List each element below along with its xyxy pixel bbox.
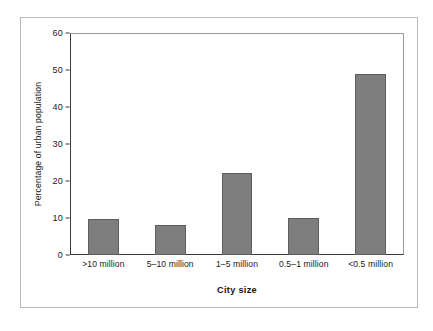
x-axis-tick-label: <0.5 million [337, 258, 404, 270]
x-axis-tick-label: 1–5 million [204, 258, 271, 270]
y-axis-tick-label: 40 [53, 103, 66, 112]
y-axis-tick: 40 [53, 103, 70, 112]
y-axis-tick: 60 [53, 29, 70, 38]
y-axis-tick-mark [66, 254, 70, 255]
y-axis-tick-label: 10 [53, 214, 66, 223]
y-axis-tick-label: 60 [53, 29, 66, 38]
x-axis-title: City size [70, 285, 404, 295]
y-axis-tick: 10 [53, 214, 70, 223]
y-axis-tick: 50 [53, 66, 70, 75]
x-axis-tick-label: 0.5–1 million [270, 258, 337, 270]
x-axis-tick-labels: >10 million5–10 million1–5 million0.5–1 … [70, 258, 404, 274]
y-axis-tick-mark [66, 106, 70, 107]
y-axis-tick: 0 [58, 251, 70, 260]
y-axis-tick-label: 20 [53, 177, 66, 186]
y-axis-tick-mark [66, 180, 70, 181]
y-axis-tick-mark [66, 69, 70, 70]
y-axis-tick-mark [66, 217, 70, 218]
x-axis-tick-label: 5–10 million [137, 258, 204, 270]
bar-chart-figure: 0102030405060 Percentage of urban popula… [0, 0, 433, 331]
x-axis-tick-label: >10 million [70, 258, 137, 270]
y-axis-tick-mark [66, 143, 70, 144]
y-axis-tick-label: 30 [53, 140, 66, 149]
y-axis-title: Percentage of urban population [31, 33, 45, 255]
y-axis-tick: 30 [53, 140, 70, 149]
y-axis-tick-label: 0 [58, 251, 66, 260]
plot-area [70, 33, 404, 255]
y-axis-tick-label: 50 [53, 66, 66, 75]
y-axis-tick: 20 [53, 177, 70, 186]
y-axis-tick-mark [66, 32, 70, 33]
